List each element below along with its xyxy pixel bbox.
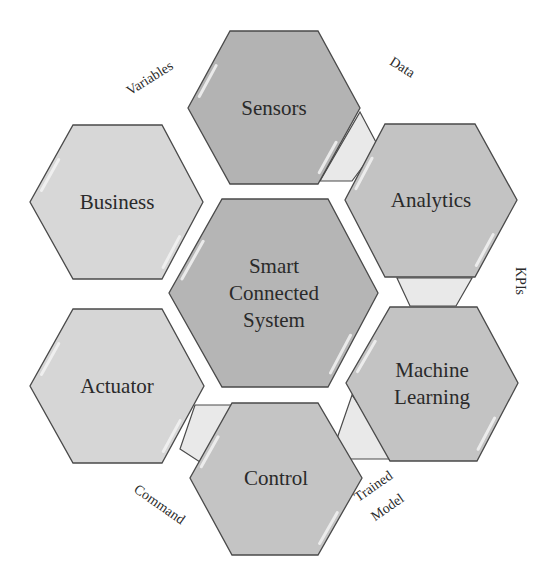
hexagon-diagram: SmartConnectedSystemSensorsAnalyticsMach… — [0, 0, 555, 584]
hexagon-label: Sensors — [241, 96, 306, 120]
hexagon-label: Business — [80, 190, 155, 214]
flow-label-data: Data — [387, 54, 418, 81]
hexagon-actuator: Actuator — [30, 309, 204, 463]
hexagon-label: Actuator — [80, 374, 153, 398]
flow-label-variables: Variables — [124, 58, 176, 98]
hexagon-business: Business — [30, 125, 203, 279]
hexagon-label: System — [243, 308, 305, 332]
hexagon-label: Connected — [229, 281, 319, 305]
flow-label-model: Model — [368, 491, 407, 524]
hexagon-label: Machine — [395, 358, 468, 382]
flow-label-kpis: KPIs — [513, 267, 528, 295]
diagram-canvas: SmartConnectedSystemSensorsAnalyticsMach… — [0, 0, 555, 584]
connector-analytics-ml — [397, 278, 472, 306]
hexagon-label: Control — [244, 466, 308, 490]
flow-label-command: Command — [131, 481, 187, 527]
hexagon-center: SmartConnectedSystem — [169, 199, 378, 387]
hexagon-label: Smart — [249, 254, 299, 278]
hexagon-label: Learning — [394, 385, 470, 409]
hexagon-label: Analytics — [391, 188, 471, 212]
